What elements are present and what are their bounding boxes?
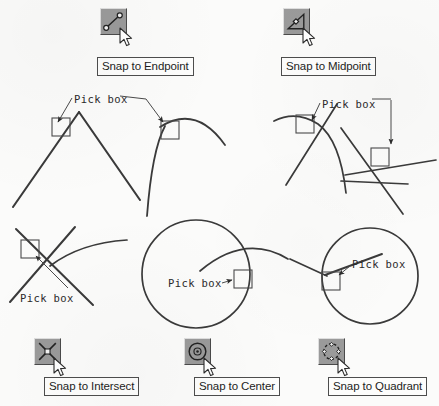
leader-center bbox=[222, 280, 232, 283]
pickbox-endpoint bbox=[52, 118, 70, 136]
caption-snap-quadrant: Snap to Quadrant bbox=[328, 377, 427, 396]
caption-snap-intersect: Snap to Intersect bbox=[44, 377, 139, 396]
annotation-pick-box-intersect: Pick box bbox=[20, 292, 74, 304]
caption-snap-center: Snap to Center bbox=[194, 377, 280, 396]
cursor-pointer-quadrant bbox=[337, 357, 353, 379]
leader-midpoint bbox=[146, 99, 163, 122]
figure-quadrant-circle bbox=[290, 228, 418, 324]
figure-endpoint-vee bbox=[13, 112, 140, 207]
cursor-pointer-center bbox=[203, 357, 219, 379]
cursor-pointer-intersect bbox=[53, 357, 69, 379]
annotation-pick-box-center: Pick box bbox=[168, 277, 222, 289]
leader-arc-line bbox=[312, 103, 320, 120]
cursor-pointer-midpoint bbox=[302, 27, 318, 49]
leader-intersect bbox=[36, 256, 68, 288]
figure-arc-line-intersection bbox=[274, 104, 346, 193]
figure-center-circle bbox=[142, 220, 288, 328]
figure-midpoint-arc bbox=[147, 119, 225, 216]
annotation-pick-box-midpoint: Pick box bbox=[322, 98, 376, 110]
caption-snap-midpoint: Snap to Midpoint bbox=[281, 57, 376, 76]
pickbox-two-lines bbox=[371, 148, 389, 166]
pick-box-group bbox=[21, 115, 389, 290]
cursor-pointer-endpoint bbox=[119, 27, 135, 49]
figure-two-line-intersection bbox=[341, 125, 436, 215]
diagram-page: Snap to Endpoint Snap to Midpoint Snap t… bbox=[0, 0, 439, 406]
caption-snap-endpoint: Snap to Endpoint bbox=[97, 57, 194, 76]
annotation-pick-box-endpoint: Pick box bbox=[74, 93, 128, 105]
leader-line-group bbox=[36, 96, 391, 288]
annotation-pick-box-quadrant: Pick box bbox=[352, 258, 406, 270]
